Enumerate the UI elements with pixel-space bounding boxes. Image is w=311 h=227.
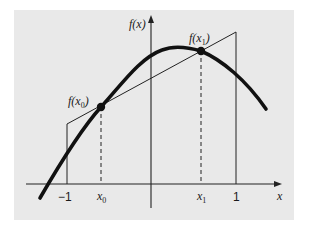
label-f-x0-suffix: ) <box>84 94 89 108</box>
label-f-x1: f(x1) <box>189 31 210 47</box>
label-f-x0-prefix: f(x <box>68 94 81 108</box>
y-axis-label: f(x) <box>129 17 146 31</box>
point-f-x0 <box>97 103 105 111</box>
tick-label-x0-sub: 0 <box>102 196 106 205</box>
label-f-x1-prefix: f(x <box>189 31 202 45</box>
label-f-x1-suffix: ) <box>205 31 210 45</box>
tick-label-one: 1 <box>233 190 240 204</box>
tick-label-neg-one: −1 <box>58 190 72 204</box>
x-axis-label: x <box>276 189 283 203</box>
tick-label-x1-sub: 1 <box>202 196 206 205</box>
x-axis-arrow-icon <box>274 181 282 187</box>
function-curve <box>40 47 266 198</box>
tick-label-x1: x1 <box>196 189 206 205</box>
y-axis-arrow-icon <box>148 15 154 23</box>
point-f-x1 <box>197 47 205 55</box>
function-plot: f(x) x −1 x0 x1 1 f(x0) f(x1) <box>0 0 311 227</box>
tick-label-x0: x0 <box>96 189 106 205</box>
label-f-x0: f(x0) <box>68 94 89 110</box>
